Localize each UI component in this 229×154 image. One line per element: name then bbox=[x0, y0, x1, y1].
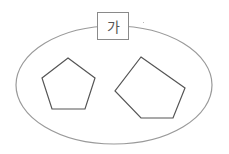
pentagon-left bbox=[42, 58, 95, 109]
pentagon-right bbox=[115, 57, 185, 118]
set-label-box: 가 bbox=[97, 12, 129, 40]
set-label: 가 bbox=[107, 16, 120, 36]
stray-mark bbox=[143, 22, 144, 23]
set-ellipse bbox=[16, 26, 212, 144]
